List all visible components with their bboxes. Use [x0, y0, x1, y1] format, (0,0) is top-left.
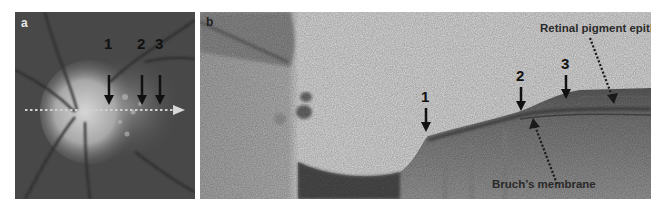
panel-label-a: a [21, 16, 28, 30]
annotation-retinal-pigment-epithelium: Retinal pigment epithelium [540, 22, 651, 34]
marker-label-1: 1 [104, 36, 112, 51]
panel-label-b: b [206, 15, 213, 29]
marker-label-1: 1 [421, 89, 429, 104]
annotation-bruchs-membrane: Bruch’s membrane [492, 178, 596, 190]
panel-b-oct-scan: b 1 2 3 Retinal pigment epithelium Bruch… [200, 12, 651, 199]
marker-label-2: 2 [137, 36, 145, 51]
marker-label-3: 3 [155, 36, 163, 51]
marker-label-3: 3 [561, 56, 569, 71]
panel-a-fundus-image: a 1 2 3 [15, 12, 195, 199]
oct-scan-image [200, 12, 651, 199]
marker-label-2: 2 [516, 68, 524, 83]
